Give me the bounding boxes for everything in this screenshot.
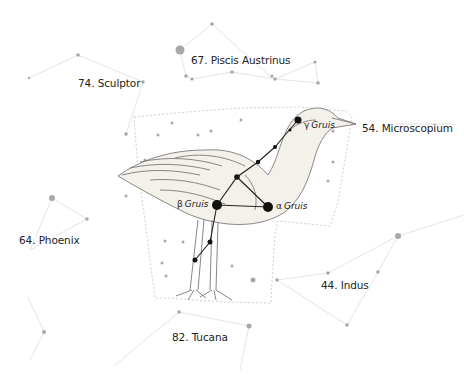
label-tucana: 82. Tucana: [172, 331, 228, 343]
greek-letter-beta: β: [177, 199, 183, 209]
label-alpha-gruis: αGruis: [276, 201, 308, 211]
label-beta-gruis: βGruis: [177, 199, 208, 209]
star-name: Gruis: [284, 201, 308, 211]
star-beta-gruis: [212, 200, 222, 210]
label-gamma-gruis: γGruis: [304, 120, 335, 130]
greek-letter-alpha: α: [276, 201, 282, 211]
greek-letter-gamma: γ: [304, 120, 309, 130]
label-indus: 44. Indus: [321, 279, 369, 291]
star-gamma-gruis: [295, 117, 302, 124]
label-sculptor: 74. Sculptor: [78, 77, 140, 89]
label-microscopium: 54. Microscopium: [362, 122, 453, 134]
star-name: Gruis: [311, 120, 335, 130]
label-phoenix: 64. Phoenix: [19, 234, 80, 246]
star-name: Gruis: [185, 199, 209, 209]
crane-illustration: [118, 108, 356, 300]
star-alpha-gruis: [263, 202, 273, 212]
label-piscis-austrinus: 67. Piscis Austrinus: [191, 54, 290, 66]
constellation-chart: 67. Piscis Austrinus 74. Sculptor 54. Mi…: [0, 0, 464, 376]
